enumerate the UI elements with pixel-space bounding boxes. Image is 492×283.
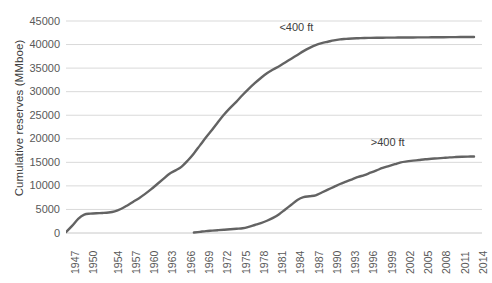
x-axis-tick-label: 1963 (167, 251, 178, 274)
y-axis-tick-label: 15000 (12, 157, 60, 168)
x-axis-tick-label: 1957 (131, 251, 142, 274)
x-axis-tick-label: 2005 (423, 251, 434, 274)
x-axis-tick-label: 1996 (368, 251, 379, 274)
x-axis-tick-label: 1981 (277, 251, 288, 274)
y-axis-tick-label: 0 (12, 228, 60, 239)
cumulative-reserves-chart: Cumulative reserves (MMboe) 450004000035… (0, 0, 492, 283)
gridlines (66, 21, 482, 233)
chart-svg (66, 14, 482, 240)
series-label-upper: <400 ft (279, 21, 313, 33)
y-axis-tick-label: 30000 (12, 86, 60, 97)
x-axis-tick-labels: 1947195019541957196019631966196919721975… (66, 242, 482, 283)
x-axis-tick-label: 1960 (149, 251, 160, 274)
x-axis-tick-label: 2014 (478, 251, 489, 274)
series-lines (66, 37, 474, 233)
y-axis-tick-label: 25000 (12, 110, 60, 121)
x-axis-tick-label: 1950 (88, 251, 99, 274)
x-axis-tick-label: 1954 (113, 251, 124, 274)
y-axis-tick-label: 10000 (12, 180, 60, 191)
y-axis-tick-label: 40000 (12, 39, 60, 50)
y-axis-tick-label: 5000 (12, 204, 60, 215)
series-line-lower (194, 156, 474, 232)
x-axis-tick-label: 1972 (222, 251, 233, 274)
x-axis-tick-label: 1993 (350, 251, 361, 274)
x-axis-tick-label: 2008 (441, 251, 452, 274)
x-axis-tick-label: 1947 (70, 251, 81, 274)
y-axis-tick-labels: 4500040000350003000025000200001500010000… (8, 0, 60, 283)
y-axis-tick-label: 35000 (12, 63, 60, 74)
x-axis-tick-label: 1990 (332, 251, 343, 274)
x-axis-tick-label: 1978 (259, 251, 270, 274)
series-line-upper (66, 37, 474, 232)
series-label-lower: >400 ft (371, 136, 405, 148)
plot-area (66, 14, 482, 240)
x-axis-tick-label: 2002 (405, 251, 416, 274)
x-axis-tick-label: 1987 (314, 251, 325, 274)
y-axis-tick-label: 20000 (12, 133, 60, 144)
x-axis-tick-label: 1969 (204, 251, 215, 274)
x-axis-tick-label: 1984 (295, 251, 306, 274)
x-axis-tick-label: 1975 (241, 251, 252, 274)
x-axis-tick-label: 1999 (387, 251, 398, 274)
x-axis-tick-label: 1966 (186, 251, 197, 274)
y-axis-tick-label: 45000 (12, 16, 60, 27)
x-axis-tick-label: 2011 (460, 251, 471, 274)
